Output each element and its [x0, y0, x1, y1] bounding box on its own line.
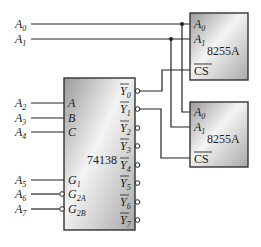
label-a6: A6: [14, 187, 26, 203]
pin-b-label: B: [68, 111, 76, 125]
inversion-bubble-g2b: [60, 207, 65, 212]
decoder-input-wires: A2 A3 A4 A5 A6 A7: [14, 96, 64, 218]
label-a1: A1: [14, 32, 26, 48]
chip-8255a-top: A0 A1 8255A CS: [190, 13, 248, 80]
pin-a-label: A: [67, 96, 76, 110]
label-a2: A2: [14, 96, 26, 112]
label-a0: A0: [14, 17, 26, 33]
label-a7: A7: [14, 202, 27, 218]
chip-8255a-bottom: A0 A1 8255A CS: [190, 102, 248, 167]
cs-label-bottom: CS: [194, 152, 209, 166]
chip1-name: 8255A: [207, 44, 240, 58]
inversion-bubble-g2a: [60, 192, 65, 197]
decoder-74138: 74138 A B C G1 G2A G2B Y0 Y1 Y2 Y3 Y4 Y5…: [64, 78, 140, 230]
circuit-diagram: 74138 A B C G1 G2A G2B Y0 Y1 Y2 Y3 Y4 Y5…: [0, 0, 261, 247]
pin-c-label: C: [68, 125, 77, 139]
label-a4: A4: [14, 125, 26, 141]
chip2-name: 8255A: [207, 132, 240, 146]
decoder-name: 74138: [87, 153, 117, 167]
cs-label-top: CS: [194, 64, 209, 78]
